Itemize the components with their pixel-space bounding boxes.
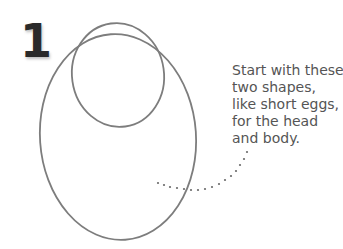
caption-line: for the head	[232, 113, 342, 130]
caption-line: and body.	[232, 130, 342, 147]
caption-line: Start with these	[232, 62, 342, 79]
caption-line: like short eggs,	[232, 96, 342, 113]
dotted-pointer-line	[157, 151, 248, 191]
body-egg-shape	[33, 29, 203, 245]
caption-line: two shapes,	[232, 79, 342, 96]
instruction-caption: Start with these two shapes, like short …	[232, 62, 342, 147]
